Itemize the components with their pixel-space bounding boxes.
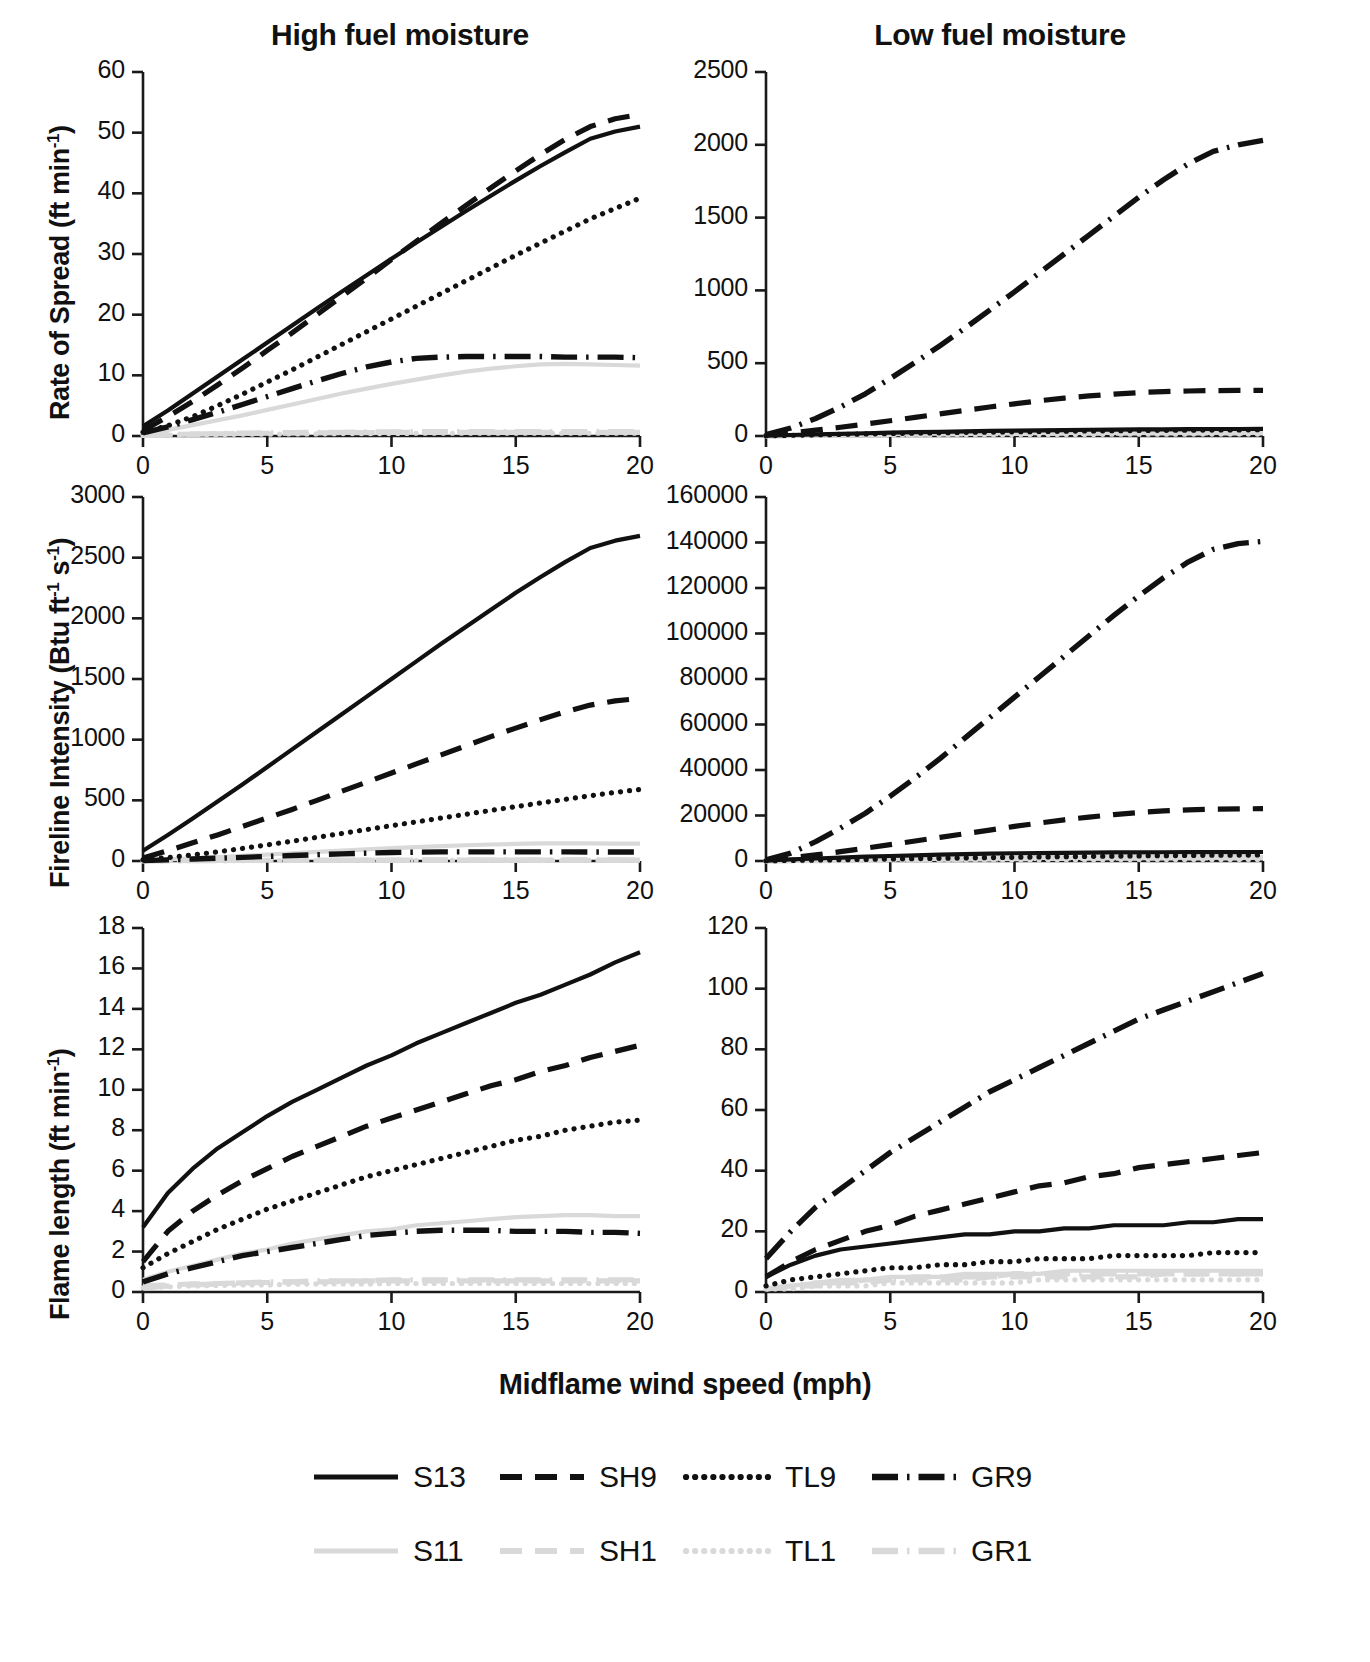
- y-tick-label: 120: [692, 911, 748, 940]
- x-tick-label: 5: [860, 1307, 920, 1336]
- y-tick-label: 60: [63, 55, 125, 84]
- y-tick-label: 16: [83, 951, 125, 980]
- series-line-S11: [143, 843, 640, 860]
- series-line-SH1: [143, 432, 640, 434]
- x-tick-label: 5: [237, 1307, 297, 1336]
- y-tick-label: 0: [83, 1275, 125, 1304]
- legend-item-sh1[interactable]: SH1: [499, 1534, 685, 1568]
- legend-label: TL9: [785, 1460, 836, 1494]
- x-tick-label: 20: [1233, 1307, 1293, 1336]
- chart-panel-ros-high: 010203040506005101520: [0, 0, 1370, 1662]
- series-line-SH1: [766, 1274, 1263, 1289]
- chart-panel-ros-low: 0500100015002000250005101520: [0, 0, 1370, 1662]
- y-tick-label: 4: [83, 1194, 125, 1223]
- x-tick-label: 10: [362, 1307, 422, 1336]
- series-line-GR9: [143, 852, 640, 861]
- y-tick-label: 1000: [656, 273, 748, 302]
- legend-label: SH9: [599, 1460, 657, 1494]
- x-tick-label: 15: [486, 451, 546, 480]
- series-line-S13: [143, 127, 640, 427]
- series-line-TL1: [143, 1284, 640, 1288]
- legend-swatch-gr9-icon: [871, 1468, 957, 1486]
- legend-row-1: S13SH9TL9GR9: [0, 1440, 1370, 1514]
- series-line-S11: [766, 857, 1263, 861]
- plot-area-fli-low: [0, 0, 1370, 1662]
- x-tick-label: 5: [237, 876, 297, 905]
- x-tick-label: 5: [860, 876, 920, 905]
- y-tick-label: 1500: [656, 201, 748, 230]
- series-line-SH9: [766, 390, 1263, 434]
- series-line-GR1: [766, 857, 1263, 861]
- y-tick-label: 80000: [620, 662, 748, 691]
- legend-swatch-tl9-icon: [685, 1468, 771, 1486]
- y-tick-label: 20000: [620, 799, 748, 828]
- legend-item-gr1[interactable]: GR1: [871, 1534, 1057, 1568]
- series-line-TL9: [766, 1253, 1263, 1286]
- x-tick-label: 10: [985, 876, 1045, 905]
- y-tick-label: 40: [692, 1154, 748, 1183]
- series-line-GR9: [143, 357, 640, 433]
- y-tick-label: 2: [83, 1235, 125, 1264]
- series-line-TL9: [766, 430, 1263, 436]
- y-tick-label: 0: [656, 419, 748, 448]
- series-line-SH1: [143, 860, 640, 861]
- plot-area-fl-low: [0, 0, 1370, 1662]
- axis-spine: [143, 497, 640, 861]
- series-line-SH1: [766, 433, 1263, 436]
- x-tick-label: 20: [610, 1307, 670, 1336]
- legend-item-tl1[interactable]: TL1: [685, 1534, 871, 1568]
- axis-spine: [766, 72, 1263, 436]
- y-axis-label-rate-of-spread: Rate of Spread (ft min-1): [44, 125, 76, 420]
- series-line-TL9: [766, 855, 1263, 861]
- series-line-GR1: [143, 1280, 640, 1288]
- y-tick-label: 140000: [620, 526, 748, 555]
- legend-swatch-sh9-icon: [499, 1468, 585, 1486]
- legend-label: GR1: [971, 1534, 1032, 1568]
- series-line-GR1: [143, 432, 640, 436]
- column-title-high-fuel-moisture: High fuel moisture: [120, 18, 680, 52]
- x-tick-label: 20: [610, 451, 670, 480]
- legend-item-gr9[interactable]: GR9: [871, 1460, 1057, 1494]
- x-tick-label: 0: [113, 1307, 173, 1336]
- y-tick-label: 2000: [656, 128, 748, 157]
- legend-swatch-tl1-icon: [685, 1542, 771, 1560]
- series-line-TL1: [143, 433, 640, 435]
- series-line-TL1: [766, 859, 1263, 861]
- series-line-S13: [766, 852, 1263, 860]
- x-tick-label: 0: [736, 451, 796, 480]
- legend-item-s13[interactable]: S13: [313, 1460, 499, 1494]
- legend-label: SH1: [599, 1534, 657, 1568]
- series-line-TL9: [143, 789, 640, 859]
- series-line-SH9: [766, 809, 1263, 860]
- x-tick-label: 20: [1233, 876, 1293, 905]
- y-tick-label: 0: [620, 844, 748, 873]
- legend-swatch-s13-icon: [313, 1468, 399, 1486]
- y-tick-label: 0: [63, 419, 125, 448]
- series-line-S13: [143, 536, 640, 851]
- legend-item-tl9[interactable]: TL9: [685, 1460, 871, 1494]
- series-line-TL1: [766, 434, 1263, 436]
- series-line-S11: [143, 364, 640, 434]
- y-tick-label: 0: [692, 1275, 748, 1304]
- y-tick-label: 160000: [620, 480, 748, 509]
- legend-swatch-sh1-icon: [499, 1542, 585, 1560]
- legend-swatch-gr1-icon: [871, 1542, 957, 1560]
- y-tick-label: 18: [83, 911, 125, 940]
- y-tick-label: 80: [692, 1032, 748, 1061]
- plot-area-ros-low: [0, 0, 1370, 1662]
- series-line-S11: [766, 1271, 1263, 1289]
- series-line-GR1: [766, 432, 1263, 436]
- series-line-TL9: [143, 1120, 640, 1268]
- y-tick-label: 14: [83, 992, 125, 1021]
- series-line-TL1: [766, 1280, 1263, 1289]
- legend-row-2: S11SH1TL1GR1: [0, 1514, 1370, 1588]
- column-title-low-fuel-moisture: Low fuel moisture: [740, 18, 1260, 52]
- y-tick-label: 12: [83, 1032, 125, 1061]
- x-tick-label: 15: [486, 876, 546, 905]
- legend-item-s11[interactable]: S11: [313, 1534, 499, 1568]
- y-tick-label: 2500: [656, 55, 748, 84]
- y-tick-label: 60: [692, 1093, 748, 1122]
- y-tick-label: 8: [83, 1113, 125, 1142]
- plot-area-fli-high: [0, 0, 1370, 1662]
- legend-item-sh9[interactable]: SH9: [499, 1460, 685, 1494]
